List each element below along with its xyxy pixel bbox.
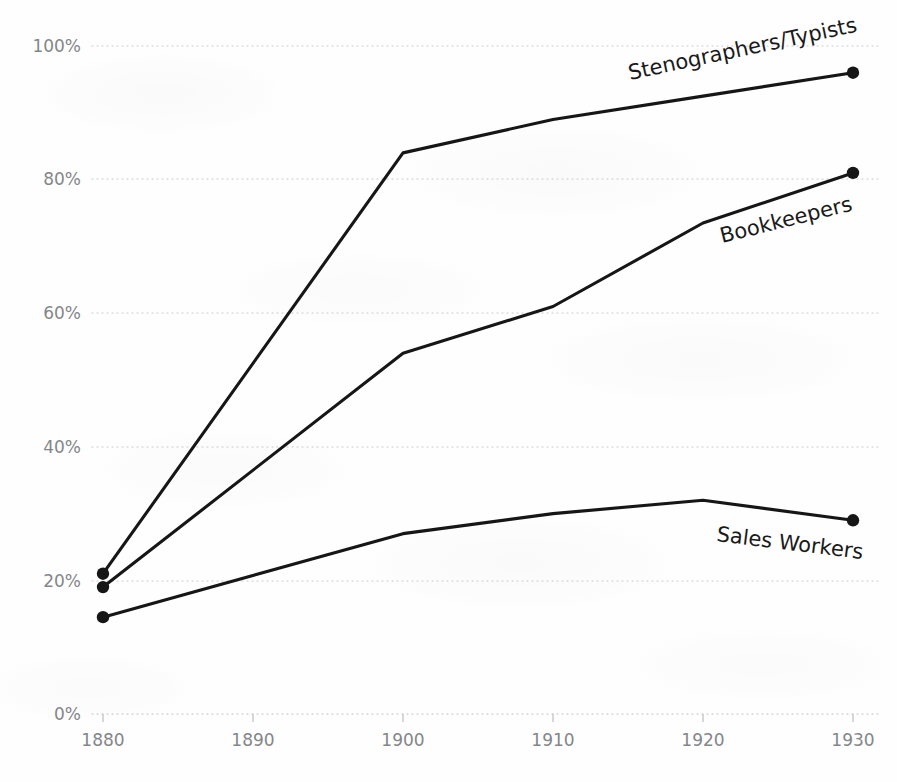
series-label-sales-workers: Sales Workers (715, 522, 864, 564)
series-endpoint-marker (847, 514, 859, 526)
gridlines (92, 46, 880, 581)
y-axis-tick-labels: 100% 80% 60% 40% 20% 0% (32, 36, 81, 724)
series-endpoint-marker (97, 568, 109, 580)
ytick-label-80: 80% (43, 169, 81, 189)
series-endpoint-marker (847, 67, 859, 79)
xtick-label-1900: 1900 (381, 730, 424, 750)
series-sales-workers (97, 500, 859, 623)
ytick-label-40: 40% (43, 437, 81, 457)
xtick-label-1910: 1910 (531, 730, 574, 750)
xtick-label-1930: 1930 (831, 730, 874, 750)
series-endpoint-marker (847, 167, 859, 179)
series-label-stenographers-typists: Stenographers/Typists (626, 13, 859, 85)
ytick-label-100: 100% (32, 36, 81, 56)
series-endpoint-marker (97, 611, 109, 623)
series-path (103, 500, 853, 617)
chart-page: 100% 80% 60% 40% 20% 0% 1880 1890 1900 1… (0, 0, 897, 782)
line-chart: 100% 80% 60% 40% 20% 0% 1880 1890 1900 1… (0, 0, 897, 782)
ytick-label-60: 60% (43, 303, 81, 323)
xtick-label-1920: 1920 (681, 730, 724, 750)
series-labels: Stenographers/Typists Bookkeepers Sales … (626, 13, 865, 564)
series-endpoint-marker (97, 581, 109, 593)
x-axis (92, 714, 880, 722)
ytick-label-20: 20% (43, 571, 81, 591)
series-label-bookkeepers: Bookkeepers (717, 192, 854, 248)
xtick-label-1880: 1880 (81, 730, 124, 750)
xtick-label-1890: 1890 (231, 730, 274, 750)
ytick-label-0: 0% (54, 704, 81, 724)
x-axis-tick-labels: 1880 1890 1900 1910 1920 1930 (81, 730, 874, 750)
